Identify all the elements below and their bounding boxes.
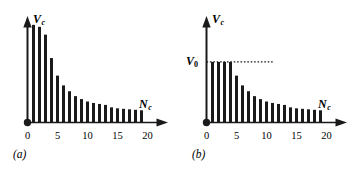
bar <box>38 27 41 123</box>
bar <box>253 96 256 122</box>
x-axis-a <box>28 118 169 126</box>
x-tick-a-10: 10 <box>82 131 93 142</box>
bar <box>68 91 71 122</box>
bar <box>301 109 304 123</box>
x-tick-a-20: 20 <box>142 131 153 142</box>
y-axis-b <box>202 16 210 123</box>
panel-b-plot <box>179 0 359 173</box>
bars-a <box>32 25 143 123</box>
bar <box>295 108 298 122</box>
bar <box>116 108 119 122</box>
bar <box>265 102 268 123</box>
x-tick-b-15: 15 <box>291 131 302 142</box>
panel-a: Vc Nc 0 5 10 15 20 (a) <box>0 0 179 173</box>
bar <box>271 103 274 123</box>
x-tick-b-20: 20 <box>321 131 332 142</box>
bar <box>62 85 65 122</box>
bar <box>313 110 316 123</box>
x-tick-b-10: 10 <box>261 131 272 142</box>
bar <box>241 85 244 122</box>
v0-level-label: V0 <box>186 55 198 69</box>
bars-b <box>211 62 322 123</box>
bar <box>56 76 59 123</box>
bar <box>32 25 35 123</box>
bar <box>289 107 292 122</box>
bar <box>44 35 47 123</box>
bar <box>247 91 250 122</box>
bar <box>229 62 232 123</box>
x-axis-label-b: Nc <box>318 98 331 112</box>
bar <box>235 76 238 123</box>
x-tick-b-5: 5 <box>234 131 239 142</box>
bar <box>110 107 113 122</box>
origin-dot-a <box>24 119 31 126</box>
bar <box>140 110 143 122</box>
bar <box>217 62 220 123</box>
bar <box>277 104 280 123</box>
bar <box>80 99 83 122</box>
panel-caption-a: (a) <box>13 149 26 161</box>
y-axis-a <box>23 16 31 123</box>
bar <box>92 103 95 123</box>
figure-container: Vc Nc 0 5 10 15 20 (a) <box>0 0 359 173</box>
bar <box>307 109 310 122</box>
x-tick-a-0: 0 <box>25 131 30 142</box>
bar <box>122 109 125 123</box>
bar <box>223 62 226 123</box>
bar <box>283 105 286 123</box>
panel-caption-b: (b) <box>192 149 205 161</box>
bar <box>319 110 322 122</box>
x-tick-b-0: 0 <box>204 131 209 142</box>
panel-b: Vc Nc V0 0 5 10 15 20 (b) <box>179 0 359 173</box>
panel-a-plot <box>0 0 179 173</box>
x-axis-b <box>207 118 348 126</box>
bar <box>86 102 89 123</box>
x-tick-a-15: 15 <box>112 131 123 142</box>
bar <box>211 62 214 123</box>
x-axis-label-a: Nc <box>139 98 152 112</box>
bar <box>104 105 107 123</box>
bar <box>134 110 137 123</box>
x-tick-a-5: 5 <box>55 131 60 142</box>
bar <box>128 109 131 122</box>
bar <box>50 58 53 122</box>
bar <box>259 99 262 122</box>
y-axis-label-a: Vc <box>33 13 45 27</box>
bar <box>74 96 77 122</box>
bar <box>98 104 101 123</box>
origin-dot-b <box>203 119 210 126</box>
y-axis-label-b: Vc <box>212 13 224 27</box>
